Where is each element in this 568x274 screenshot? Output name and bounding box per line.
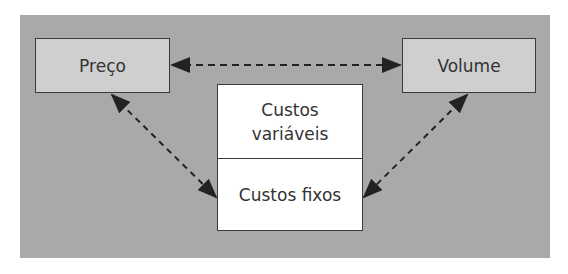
arrow-volume-custos-fixos [364,95,467,197]
fixed-costs-label: Custos fixos [239,183,341,207]
node-volume: Volume [402,38,536,93]
node-fixed-costs: Custos fixos [218,159,362,230]
arrow-preco-custos-fixos [112,95,216,197]
node-preco: Preço [35,38,170,93]
node-volume-label: Volume [437,56,500,76]
node-variable-costs: Custos variáveis [218,85,362,159]
variable-costs-line2: variáveis [252,122,329,146]
node-preco-label: Preço [79,56,126,76]
node-costs: Custos variáveis Custos fixos [217,84,363,231]
variable-costs-line1: Custos [252,98,329,122]
